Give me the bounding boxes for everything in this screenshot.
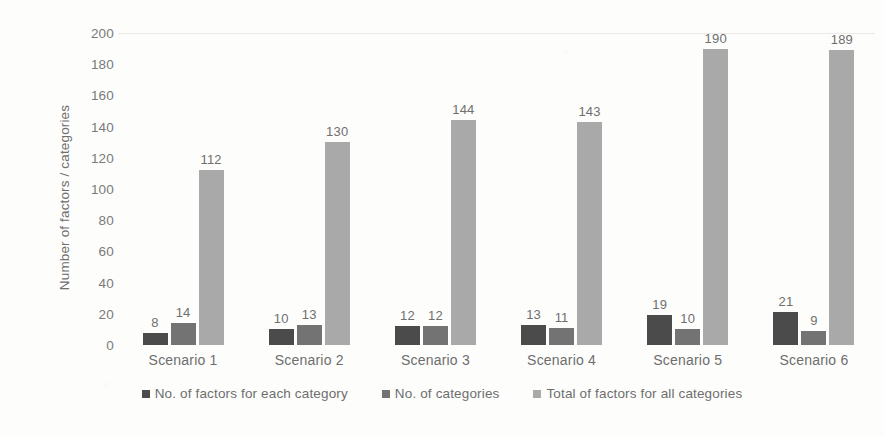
bar-value-label: 19 [652, 297, 667, 312]
legend-label: Total of factors for all categories [546, 386, 742, 401]
bar[interactable] [451, 120, 476, 345]
bar-slot: 14 [171, 33, 196, 345]
bar-value-label: 10 [680, 311, 695, 326]
bar-slot: 10 [675, 33, 700, 345]
bar[interactable] [577, 122, 602, 345]
bar[interactable] [829, 50, 854, 345]
y-axis-tick: 180 [78, 57, 114, 72]
bar-value-label: 143 [578, 104, 600, 119]
bar-value-label: 130 [326, 124, 348, 139]
legend-label: No. of factors for each category [155, 386, 348, 401]
bar-value-label: 10 [274, 311, 289, 326]
bar-group: 1910190 [623, 33, 749, 345]
bar[interactable] [675, 329, 700, 345]
bar[interactable] [773, 312, 798, 345]
bar[interactable] [395, 326, 420, 345]
y-axis-title: Number of factors / categories [57, 48, 72, 348]
bar-value-label: 11 [555, 310, 569, 325]
bar-value-label: 13 [526, 307, 541, 322]
bar-value-label: 112 [200, 152, 221, 167]
bar-slot: 130 [325, 33, 350, 345]
y-axis-tick: 140 [78, 119, 114, 134]
bar[interactable] [521, 325, 546, 345]
bar-group: 219189 [749, 33, 875, 345]
bar[interactable] [269, 329, 294, 345]
bar[interactable] [143, 333, 168, 345]
bar-slot: 10 [269, 33, 294, 345]
bar-value-label: 190 [705, 31, 727, 46]
legend-item[interactable]: No. of factors for each category [142, 386, 348, 401]
bar-slot: 144 [451, 33, 476, 345]
y-axis-tick: 200 [78, 26, 114, 41]
bar-slot: 143 [577, 33, 602, 345]
x-axis-category-label: Scenario 1 [149, 352, 218, 368]
bar-slot: 13 [521, 33, 546, 345]
legend-item[interactable]: No. of categories [382, 386, 500, 401]
bar-chart: Number of factors / categories 200180160… [0, 0, 884, 437]
y-axis-tick: 80 [78, 213, 114, 228]
bar-slot: 21 [773, 33, 798, 345]
bar[interactable] [199, 170, 224, 345]
bar-value-label: 9 [810, 313, 817, 328]
bar[interactable] [171, 323, 196, 345]
bar-value-label: 144 [452, 102, 474, 117]
bar-value-label: 12 [400, 308, 415, 323]
bar-slot: 112 [199, 33, 224, 345]
y-axis-tick: 0 [78, 338, 114, 353]
legend-label: No. of categories [395, 386, 500, 401]
bar-slot: 8 [143, 33, 168, 345]
y-axis-tick: 20 [78, 306, 114, 321]
y-axis-tick: 60 [78, 244, 114, 259]
bar[interactable] [647, 315, 672, 345]
bar-value-label: 13 [302, 307, 317, 322]
plot-area: 8141121013130121214413111431910190219189 [118, 33, 875, 345]
bar-value-label: 8 [151, 315, 158, 330]
bar-group: 1311143 [497, 33, 623, 345]
y-axis-tick: 160 [78, 88, 114, 103]
bar-slot: 190 [703, 33, 728, 345]
x-axis-category-label: Scenario 4 [527, 352, 596, 368]
x-axis-category-label: Scenario 6 [779, 352, 848, 368]
x-axis-category-label: Scenario 2 [275, 352, 344, 368]
bar-slot: 9 [801, 33, 826, 345]
bar-slot: 19 [647, 33, 672, 345]
bar-value-label: 12 [428, 308, 443, 323]
bar-slot: 12 [423, 33, 448, 345]
legend-swatch-icon [142, 390, 150, 398]
bar[interactable] [325, 142, 350, 345]
bar-slot: 13 [297, 33, 322, 345]
bar-value-label: 14 [176, 305, 191, 320]
y-axis-tick: 120 [78, 150, 114, 165]
y-axis-tick: 100 [78, 182, 114, 197]
bar[interactable] [801, 331, 826, 345]
chart-legend: No. of factors for each categoryNo. of c… [0, 386, 884, 401]
bar-value-label: 189 [831, 32, 853, 47]
bar-group: 1212144 [370, 33, 496, 345]
legend-swatch-icon [382, 390, 390, 398]
y-axis-tick: 40 [78, 275, 114, 290]
bar-slot: 12 [395, 33, 420, 345]
bar[interactable] [297, 325, 322, 345]
legend-swatch-icon [533, 390, 541, 398]
y-axis-tick-labels: 200180160140120100806040200 [78, 0, 114, 437]
bar-value-label: 21 [778, 294, 793, 309]
x-axis-category-label: Scenario 5 [653, 352, 722, 368]
bar[interactable] [423, 326, 448, 345]
bar-slot: 189 [829, 33, 854, 345]
bar-group: 814112 [118, 33, 244, 345]
x-axis-category-label: Scenario 3 [401, 352, 470, 368]
x-axis-category-labels: Scenario 1Scenario 2Scenario 3Scenario 4… [118, 352, 875, 376]
bar[interactable] [703, 49, 728, 345]
bar-group: 1013130 [244, 33, 370, 345]
legend-item[interactable]: Total of factors for all categories [533, 386, 742, 401]
bar[interactable] [549, 328, 574, 345]
bar-slot: 11 [549, 33, 574, 345]
